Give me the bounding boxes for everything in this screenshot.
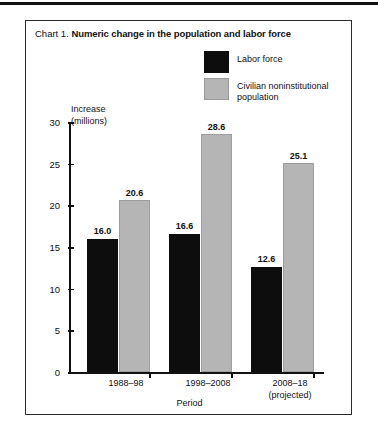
legend-swatch-civilian-population-icon bbox=[204, 78, 229, 100]
y-axis-tick-label: 0 bbox=[55, 367, 60, 378]
bar: 20.6 bbox=[119, 200, 150, 372]
y-axis-tick-label: 20 bbox=[49, 200, 60, 211]
bar-group: 12.625.1 bbox=[251, 122, 329, 372]
y-axis-tick-mark bbox=[68, 289, 74, 291]
bar-group: 16.628.6 bbox=[169, 122, 247, 372]
y-axis-tick-mark bbox=[68, 330, 74, 332]
bar-value-label: 28.6 bbox=[208, 122, 226, 132]
chart-title: Chart 1. Numeric change in the populatio… bbox=[35, 28, 291, 40]
y-axis-tick-mark bbox=[68, 205, 74, 207]
bar-value-label: 12.6 bbox=[258, 254, 276, 264]
bar: 28.6 bbox=[201, 134, 232, 372]
plot-area: 051015202530 16.020.616.628.612.625.1 19… bbox=[69, 122, 324, 372]
y-axis-tick-label: 5 bbox=[55, 325, 60, 336]
bar-group: 16.020.6 bbox=[87, 122, 165, 372]
bar: 16.0 bbox=[87, 239, 118, 372]
y-axis-tick-mark bbox=[68, 372, 74, 374]
y-axis-tick-label: 30 bbox=[49, 117, 60, 128]
bar-value-label: 20.6 bbox=[126, 188, 144, 198]
y-axis-tick-mark bbox=[68, 122, 74, 124]
bar-value-label: 25.1 bbox=[290, 151, 308, 161]
legend-swatch-labor-force-icon bbox=[204, 51, 229, 73]
y-axis-tick-label: 25 bbox=[49, 158, 60, 169]
chart-frame: Chart 1. Numeric change in the populatio… bbox=[25, 20, 352, 415]
legend-item-civilian-population: Civilian noninstitutional population bbox=[204, 78, 354, 103]
y-axis-tick-label: 10 bbox=[49, 283, 60, 294]
bar-value-label: 16.6 bbox=[176, 221, 194, 231]
legend-item-labor-force: Labor force bbox=[204, 51, 354, 73]
chart-legend: Labor force Civilian noninstitutional po… bbox=[204, 51, 354, 108]
bar: 12.6 bbox=[251, 267, 282, 372]
y-axis-title-line-1: Increase bbox=[71, 104, 107, 116]
y-axis-tick-mark bbox=[68, 164, 74, 166]
x-axis-title: Period bbox=[26, 398, 353, 408]
bar: 25.1 bbox=[283, 163, 314, 372]
legend-label-civilian-population: Civilian noninstitutional population bbox=[237, 78, 354, 103]
bar: 16.6 bbox=[169, 234, 200, 372]
y-axis-tick-label: 15 bbox=[49, 242, 60, 253]
x-axis-category-label-line: 2008–18 bbox=[229, 378, 351, 390]
bar-value-label: 16.0 bbox=[94, 226, 112, 236]
x-axis-line bbox=[69, 372, 324, 374]
chart-number-label: Chart 1. bbox=[35, 28, 69, 39]
legend-label-labor-force: Labor force bbox=[237, 51, 283, 65]
y-axis-tick-mark bbox=[68, 247, 74, 249]
page-top-rule bbox=[0, 2, 378, 5]
chart-title-text: Numeric change in the population and lab… bbox=[71, 28, 291, 39]
